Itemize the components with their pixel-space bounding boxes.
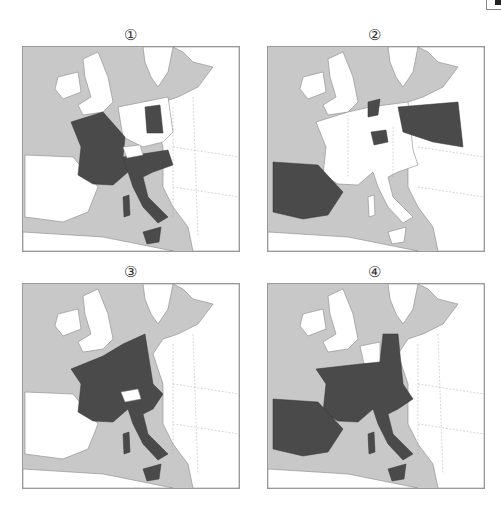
europe-map-2 [268,47,484,251]
map-panel-2[interactable] [267,46,485,252]
panel-label-2: ② [364,27,384,43]
europe-map-4 [268,284,484,488]
europe-map-3 [23,284,239,488]
corner-mark [486,0,501,10]
map-panel-1[interactable] [22,46,240,252]
europe-map-1 [23,47,239,251]
panel-label-4: ④ [364,264,384,280]
map-panel-3[interactable] [22,283,240,489]
map-panel-4[interactable] [267,283,485,489]
panel-label-3: ③ [120,264,140,280]
panel-label-1: ① [120,27,140,43]
